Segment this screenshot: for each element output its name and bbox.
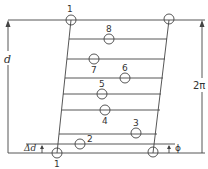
label-7: 7: [91, 65, 97, 75]
circle-3: [131, 128, 141, 138]
delta-d-arrowhead-icon: [40, 145, 44, 149]
two-pi-arrowhead-icon: [200, 20, 205, 27]
d-arrowhead-icon: [6, 20, 11, 27]
label-8: 8: [106, 24, 112, 34]
label-4: 4: [102, 116, 108, 126]
phase-diagram: d 2π Δd ϕ 1 1 8 7 6 5 4 3 2: [0, 0, 208, 169]
label-6: 6: [122, 63, 128, 73]
phi-arrowhead-icon: [167, 145, 171, 149]
delta-d-label: Δd: [23, 143, 36, 153]
phi-label: ϕ: [175, 143, 181, 153]
label-bottom-1: 1: [54, 159, 60, 169]
two-pi-label: 2π: [193, 80, 205, 91]
label-top-1: 1: [67, 4, 73, 14]
label-2: 2: [87, 134, 93, 144]
d-label: d: [4, 53, 11, 66]
left-slanted-side: [57, 20, 71, 153]
label-3: 3: [133, 118, 139, 128]
right-slanted-side: [153, 20, 169, 153]
label-5: 5: [99, 79, 105, 89]
